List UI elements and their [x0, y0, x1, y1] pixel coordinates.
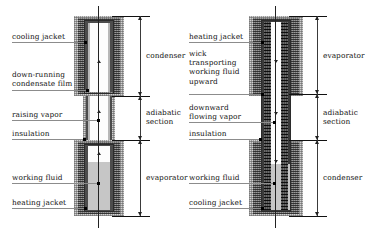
leader-dot-cooling-jacket: [84, 41, 87, 44]
thermosyphon-diagram: cooling jacket down-running condensate f…: [0, 0, 185, 233]
vapor-flow-arrow-mid: [274, 112, 278, 115]
dimtick-adiabatic-end: [112, 140, 150, 141]
leader-downward-vapor: [189, 122, 275, 123]
label-evaporator: evaporator: [323, 51, 365, 60]
dimline-condenser: [140, 16, 141, 96]
vapor-flow-arrow-lower: [97, 152, 101, 155]
label-condenser: condenser: [323, 173, 362, 182]
label-wick: wick transporting working fluid upward: [189, 49, 240, 86]
dimline-adiabatic: [140, 96, 141, 140]
dimtick-evaporator-end: [289, 94, 327, 95]
dimarrow-evaporator-top: [315, 16, 319, 20]
label-heating-jacket: heating jacket: [12, 198, 66, 207]
label-raising-vapor: raising vapor: [12, 110, 62, 119]
leader-dot-heating-jacket: [84, 207, 87, 210]
label-working-fluid: working fluid: [189, 173, 240, 182]
leader-heating-jacket: [189, 42, 263, 43]
leader-dot-working-fluid: [97, 182, 100, 185]
label-condenser: condenser: [146, 51, 185, 60]
label-condensate-film: down-running condensate film: [12, 70, 72, 88]
leader-dot-wick: [261, 93, 264, 96]
wick-heatpipe-diagram: heating jacket wick transporting working…: [185, 0, 370, 233]
leader-condensate-film: [12, 90, 88, 91]
leader-cooling-jacket: [12, 42, 86, 43]
dimtick-top: [112, 16, 150, 17]
leader-dot-insulation: [259, 138, 262, 141]
leader-wick: [189, 94, 263, 95]
label-downward-vapor: downward flowing vapor: [189, 103, 241, 121]
leader-insulation: [189, 139, 261, 140]
dimarrow-condenser-bottom: [315, 212, 319, 216]
centerline-axis: [275, 6, 276, 228]
tube-outline-condenser: [84, 20, 114, 94]
label-insulation: insulation: [12, 129, 50, 138]
dimline-condenser: [317, 140, 318, 216]
vapor-flow-arrow-lower: [274, 160, 278, 163]
leader-insulation: [12, 139, 84, 140]
centerline-dot-top: [275, 9, 276, 11]
dimtick-bottom: [112, 216, 150, 217]
centerline-axis: [98, 6, 99, 228]
label-evaporator: evaporator: [146, 173, 188, 182]
vapor-flow-arrow-mid: [97, 110, 101, 113]
leader-dot-downward-vapor: [273, 121, 276, 124]
leader-cooling-jacket: [189, 208, 263, 209]
label-working-fluid: working fluid: [12, 173, 63, 182]
vapor-flow-arrow-upper: [97, 60, 101, 63]
leader-dot-cooling-jacket: [261, 207, 264, 210]
figure-canvas: cooling jacket down-running condensate f…: [0, 0, 370, 233]
leader-dot-insulation: [83, 138, 86, 141]
vapor-flow-arrow-upper: [274, 60, 278, 63]
leader-heating-jacket: [12, 208, 86, 209]
dimarrow-adiabatic-top: [315, 94, 319, 98]
label-cooling-jacket: cooling jacket: [12, 32, 65, 41]
dimtick-condenser-end: [112, 96, 150, 97]
leader-dot-condensate-film: [86, 89, 89, 92]
leader-raising-vapor: [12, 120, 98, 121]
centerline-dot-top: [98, 9, 99, 11]
dimtick-top: [289, 16, 327, 17]
dimline-adiabatic: [317, 94, 318, 140]
label-cooling-jacket: cooling jacket: [189, 198, 242, 207]
dimtick-adiabatic-end: [289, 140, 327, 141]
label-adiabatic-section: adiabatic section: [146, 108, 181, 126]
centerline-dot-bottom: [98, 224, 99, 226]
dimarrow-evaporator-bottom: [138, 212, 142, 216]
leader-working-fluid: [189, 183, 275, 184]
dimline-evaporator: [317, 16, 318, 94]
dimarrow-adiabatic-top: [138, 96, 142, 100]
leader-dot-heating-jacket: [261, 41, 264, 44]
leader-dot-working-fluid: [273, 182, 276, 185]
label-adiabatic-section: adiabatic section: [323, 108, 358, 126]
dimline-evaporator: [140, 140, 141, 216]
label-insulation: insulation: [189, 129, 227, 138]
dimarrow-evaporator-top: [138, 140, 142, 144]
centerline-dot-bottom: [275, 224, 276, 226]
dimtick-bottom: [289, 216, 327, 217]
dimarrow-condenser-top: [138, 16, 142, 20]
leader-dot-raising-vapor: [97, 119, 100, 122]
dimarrow-condenser-top: [315, 140, 319, 144]
leader-working-fluid: [12, 183, 98, 184]
label-heating-jacket: heating jacket: [189, 32, 243, 41]
